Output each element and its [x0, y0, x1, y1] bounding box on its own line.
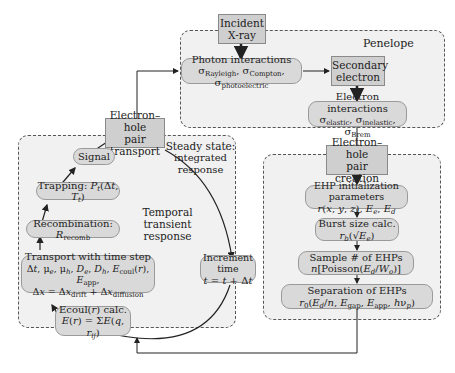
ehp-init-params: r(x, y, z), Ee, Ed: [306, 203, 407, 215]
increment-time-box: Increment time t = t + Δt: [200, 255, 256, 283]
temporal-label-1: Temporal: [120, 206, 215, 218]
burst-size-title: Burst size calc.: [316, 218, 398, 230]
incident-xray-line2: X-ray: [219, 29, 265, 41]
steady-state-label-1: Steady state:: [163, 140, 238, 152]
incident-xray-line1: Incident: [219, 17, 265, 29]
sample-ehps-title: Sample # of EHPs: [299, 252, 413, 264]
separation-title: Separation of EHPs: [282, 285, 432, 297]
sample-ehps-formula: n[Poisson(Ed/Wo)]: [299, 263, 413, 275]
sample-ehps-box: Sample # of EHPs n[Poisson(Ed/Wo)]: [298, 251, 414, 275]
penelope-label: Penelope: [363, 38, 414, 50]
electron-interactions-box: Electron interactions σelastic, σinelast…: [308, 101, 407, 127]
transport-step-box: Transport with time step Δt, μe, μh, De,…: [21, 255, 155, 293]
electron-interactions-title: Electron interactions: [309, 91, 406, 114]
trapping-box: Trapping: Pt(Δt, Tt): [36, 182, 120, 200]
ehp-transport-line1: Electron–hole: [106, 109, 164, 133]
burst-size-formula: rb(√Ee): [316, 230, 398, 242]
transport-step-title: Transport with time step: [22, 251, 154, 263]
trapping-label: Trapping: Pt(Δt, Tt): [37, 180, 119, 203]
ehp-init-box: EHP initialization parameters r(x, y, z)…: [305, 185, 408, 209]
ehp-transport-box: Electron–hole pair transport: [105, 118, 165, 148]
burst-size-box: Burst size calc. rb(√Ee): [315, 218, 399, 241]
recombination-box: Recombination: Rrecomb: [26, 220, 120, 238]
recombination-label: Recombination: Rrecomb: [27, 218, 119, 241]
increment-time-formula: t = t + Δt: [201, 275, 255, 287]
secondary-electron-line2: electron: [332, 71, 384, 83]
ehp-creation-line1: Electron–hole: [327, 136, 387, 160]
separation-formula: r0(Ed/n, Egap, Eapp, hνp): [282, 297, 432, 309]
temporal-label-2: transient response: [120, 218, 215, 242]
ecoul-calc-formula: E(r) = ΣE(q, rij): [56, 315, 130, 338]
increment-time-title: Increment time: [201, 252, 255, 275]
incident-xray-box: Incident X-ray: [218, 14, 266, 44]
steady-state-label-2: integrated response: [158, 152, 243, 176]
ehp-creation-box: Electron–hole pair creation: [326, 145, 388, 175]
separation-box: Separation of EHPs r0(Ed/n, Egap, Eapp, …: [281, 284, 433, 309]
signal-label: Signal: [74, 151, 114, 163]
photon-interactions-box: Photon interactions σRayleigh, σCompton,…: [181, 58, 302, 84]
signal-box: Signal: [73, 148, 115, 165]
photon-interactions-title: Photon interactions: [182, 54, 301, 66]
transport-step-params: Δt, μe, μh, De, Dh, Ecoul(r), Eapp,: [22, 263, 154, 286]
transport-step-formula: Δx = Δxdrift + Δxdiffusion: [22, 286, 154, 298]
electron-interactions-cross-sections: σelastic, σinelastic, σBrem: [309, 114, 406, 137]
secondary-electron-line1: Secondary: [332, 59, 384, 71]
photon-interactions-cross-sections: σRayleigh, σCompton, σphotoelectric: [182, 65, 301, 88]
ecoul-calc-box: Ecoul(r) calc. E(r) = ΣE(q, rij): [55, 306, 131, 336]
secondary-electron-box: Secondary electron: [331, 56, 385, 86]
ehp-init-title: EHP initialization parameters: [306, 180, 407, 203]
ecoul-calc-title: Ecoul(r) calc.: [56, 304, 130, 316]
